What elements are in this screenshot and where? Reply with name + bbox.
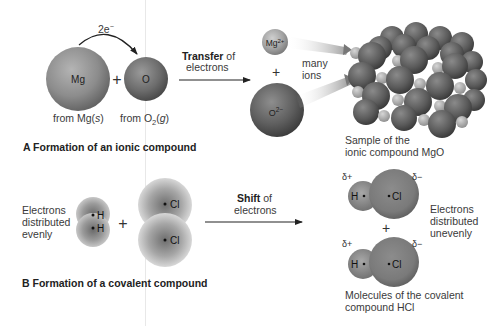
many-ions-label-line2: ions xyxy=(302,69,321,81)
molecules-hcl-label: Molecules of the covalent xyxy=(345,289,464,301)
h-atom-label-bottom: H xyxy=(97,223,104,234)
h-label-bottom: H xyxy=(351,259,358,270)
even-distribution-label-line3: evenly xyxy=(22,228,53,240)
o-atom-label: O xyxy=(142,74,150,85)
uneven-distribution-label: Electrons xyxy=(430,203,474,215)
h2-molecule: H H xyxy=(76,197,110,247)
h-atom-label-top: H xyxy=(97,210,104,221)
delta-minus-top: δ− xyxy=(412,172,422,182)
h-label-top: H xyxy=(351,191,358,202)
many-ions-label: many xyxy=(302,57,328,69)
section-b-caption: B Formation of a covalent compound xyxy=(22,277,208,289)
section-b-covalent: Electrons distributed evenly H H + Cl Cl… xyxy=(22,169,479,313)
section-a-caption: A Formation of an ionic compound xyxy=(23,141,196,153)
plus-sign-hcl: + xyxy=(382,220,390,236)
sample-mgo-label: Sample of the xyxy=(345,134,410,146)
hcl-molecule-bottom: H Cl δ+ δ− xyxy=(342,237,422,287)
even-distribution-label-line2: distributed xyxy=(22,216,71,228)
uneven-distribution-label-line2: distributed xyxy=(430,215,479,227)
plus-sign-a: + xyxy=(112,71,121,88)
molecules-hcl-label-line2: compound HCl xyxy=(345,301,414,313)
transfer-label-line2: electrons xyxy=(186,61,229,73)
cl-atom-label-top: Cl xyxy=(170,199,179,210)
plus-sign-ions: + xyxy=(272,64,280,80)
delta-plus-bottom: δ+ xyxy=(342,239,352,249)
uneven-distribution-label-line3: unevenly xyxy=(430,227,473,239)
cl-label-top: Cl xyxy=(392,191,401,202)
sample-mgo-label-line2: ionic compound MgO xyxy=(345,146,444,158)
cl-label-bottom: Cl xyxy=(392,259,401,270)
mg-ion-beam-arrow xyxy=(287,36,350,55)
mg-atom-label: Mg xyxy=(71,74,85,85)
shift-label-line2: electrons xyxy=(234,204,277,216)
plus-sign-b: + xyxy=(118,215,127,232)
delta-minus-bottom: δ− xyxy=(412,239,422,249)
delta-plus-top: δ+ xyxy=(342,172,352,182)
from-mg-label: from Mg(s) xyxy=(53,112,104,124)
hcl-molecule-top: H Cl δ+ δ− xyxy=(342,169,422,219)
mgo-lattice xyxy=(348,22,487,138)
from-o2-label: from O2(g) xyxy=(120,112,169,127)
shift-label: Shift of xyxy=(237,192,272,204)
ionic-covalent-diagram: 2e− Mg + O from Mg(s) from O2(g) Transfe… xyxy=(0,0,498,326)
cl-atom-label-bottom: Cl xyxy=(170,235,179,246)
section-a-ionic: 2e− Mg + O from Mg(s) from O2(g) Transfe… xyxy=(23,22,487,158)
cl2-molecule: Cl Cl xyxy=(138,178,192,267)
electron-label: 2e− xyxy=(98,23,114,35)
even-distribution-label: Electrons xyxy=(22,204,66,216)
